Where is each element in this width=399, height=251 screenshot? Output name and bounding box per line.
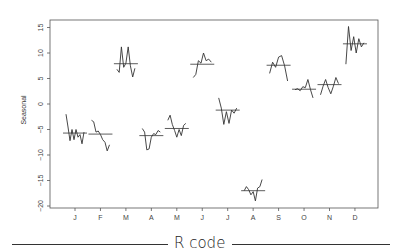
x-tick-label: S [276,214,281,221]
month-subseries-aug [241,180,265,201]
seasonal-subseries-chart: 151050−5−10−15−20 JFMAMJJASOND Seasonal [0,0,399,251]
subseries-line [193,53,211,78]
month-subseries-dec [343,27,367,65]
section-heading-title: R code [174,234,225,251]
subseries-line [168,115,186,137]
x-tick-label: F [98,214,102,221]
month-subseries-may [165,115,189,137]
month-subseries-nov [318,78,342,95]
subseries-line [270,56,288,81]
month-subseries-jun [190,53,214,78]
x-tick-label: D [352,214,357,221]
month-subseries-feb [88,120,112,151]
subseries-line [142,129,160,150]
subseries-line [66,114,84,144]
y-tick-label: −10 [37,149,44,161]
month-subseries-jan [63,114,87,144]
series-group [63,27,367,201]
x-tick-label: M [174,214,180,221]
subseries-line [346,27,364,65]
plot-frame [50,20,378,208]
heading-rule-left [12,244,168,245]
heading-rule-right [232,244,390,245]
y-tick-label: −20 [37,200,44,212]
y-axis-label: Seasonal [20,95,27,125]
y-axis: 151050−5−10−15−20 [37,24,50,212]
subseries-line [295,80,313,98]
x-tick-label: N [327,214,332,221]
x-tick-label: M [123,214,129,221]
y-tick-label: 0 [37,102,44,106]
subseries-line [219,98,237,125]
x-tick-label: J [73,214,77,221]
subseries-line [92,120,110,151]
y-tick-label: −5 [37,125,44,133]
subseries-line [321,78,339,95]
month-subseries-oct [292,80,316,98]
x-tick-label: J [226,214,230,221]
y-tick-label: 5 [37,76,44,80]
subseries-line [244,180,262,201]
month-subseries-jul [216,98,240,125]
month-subseries-apr [139,129,163,150]
x-tick-label: A [149,214,154,221]
x-tick-label: A [251,214,256,221]
y-tick-label: 15 [37,24,44,32]
month-subseries-mar [114,47,138,77]
subseries-line [117,47,135,77]
section-heading: R code [0,234,399,251]
x-tick-label: O [301,214,307,221]
x-axis: JFMAMJJASOND [73,208,357,221]
y-tick-label: −15 [37,174,44,186]
x-tick-label: J [201,214,205,221]
y-tick-label: 10 [37,49,44,57]
month-subseries-sep [267,56,291,81]
